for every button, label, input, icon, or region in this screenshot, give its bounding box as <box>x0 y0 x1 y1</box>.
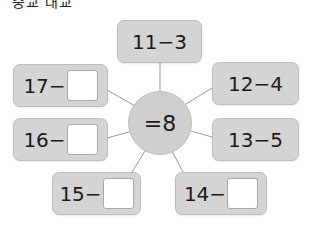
center-circle: =8 <box>128 91 192 155</box>
expression-text: 16− <box>23 128 65 152</box>
expression-text: 11−3 <box>132 30 187 54</box>
center-label: =8 <box>144 111 176 136</box>
expression-box-mid-right: 13−5 <box>212 118 299 161</box>
expression-text: 12−4 <box>228 72 283 96</box>
expression-text: 17− <box>23 74 65 98</box>
connector-mid-right <box>191 131 212 137</box>
expression-box-mid-left: 16− <box>13 118 108 161</box>
answer-blank[interactable] <box>67 70 98 101</box>
connector-lower-right <box>172 151 183 172</box>
answer-blank[interactable] <box>67 124 98 155</box>
connector-upper-right <box>186 88 212 104</box>
expression-box-top: 11−3 <box>117 20 202 63</box>
connector-lower-left <box>132 151 145 172</box>
expression-box-upper-left: 17− <box>13 64 108 107</box>
expression-box-upper-right: 12−4 <box>212 62 299 105</box>
expression-text: 13−5 <box>228 128 283 152</box>
expression-box-lower-left: 15− <box>52 172 141 215</box>
expression-text: 15− <box>59 182 101 206</box>
connector-upper-left <box>107 90 135 106</box>
connector-mid-left <box>107 132 129 138</box>
answer-blank[interactable] <box>227 178 258 209</box>
expression-box-lower-right: 14− <box>175 172 267 215</box>
answer-blank[interactable] <box>103 178 134 209</box>
expression-text: 14− <box>184 182 226 206</box>
